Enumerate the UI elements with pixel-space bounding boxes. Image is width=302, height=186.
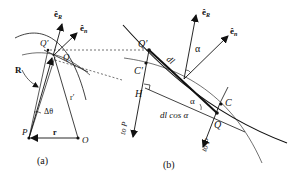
label-Q-b: Q xyxy=(214,119,222,130)
label-delta-theta: Δθ xyxy=(44,107,53,116)
point-C xyxy=(219,102,222,105)
label-dl: dl xyxy=(165,54,177,66)
point-Q-prime-b xyxy=(147,48,151,52)
diagram-canvas: êR ên Q′ Q R r′ Δθ P r O (a) xyxy=(0,0,302,186)
dashed-line-lower xyxy=(55,60,122,80)
label-Q-prime-a: Q′ xyxy=(40,38,49,48)
ray-P-Qprime xyxy=(29,50,48,138)
label-r-prime: r′ xyxy=(70,93,75,102)
surface-curve-outer xyxy=(15,33,86,100)
label-Q-prime-b: Q′ xyxy=(138,38,148,49)
caption-a: (a) xyxy=(37,155,48,167)
vector-R xyxy=(29,58,52,138)
label-e-n-a: ên xyxy=(80,23,88,34)
label-C: C xyxy=(225,97,232,108)
label-to-P-right: to P xyxy=(199,137,212,153)
ray-P-Q xyxy=(29,57,55,138)
label-alpha-top: α xyxy=(195,43,201,54)
point-P xyxy=(27,136,30,139)
label-O: O xyxy=(82,135,89,145)
surface-curve-b xyxy=(123,25,287,143)
segment-dl xyxy=(149,50,217,113)
label-C-prime: C′ xyxy=(134,65,144,76)
label-e-R-b: êR xyxy=(202,7,210,18)
label-H: H xyxy=(134,88,143,99)
label-e-R-a: êR xyxy=(54,9,62,20)
point-Q-b xyxy=(215,111,219,115)
point-O xyxy=(76,136,79,139)
label-R: R xyxy=(15,65,22,75)
label-to-P-left: to P xyxy=(118,121,129,136)
label-dl-cos-alpha: dl cos α xyxy=(160,110,188,120)
label-Q-a: Q xyxy=(63,52,70,62)
label-e-n-b: ên xyxy=(230,26,238,37)
R-pointer xyxy=(22,70,38,87)
label-r: r xyxy=(53,128,57,137)
label-P: P xyxy=(21,127,28,137)
panel-b: êR ên Q′ α dl C′ H α C dl cos α Q to P t… xyxy=(118,7,287,171)
point-C-prime xyxy=(144,61,147,64)
label-alpha-bottom: α xyxy=(190,96,195,106)
alpha-arc-bottom xyxy=(200,104,201,110)
point-Q-prime-a xyxy=(47,49,50,52)
caption-b: (b) xyxy=(163,159,175,171)
